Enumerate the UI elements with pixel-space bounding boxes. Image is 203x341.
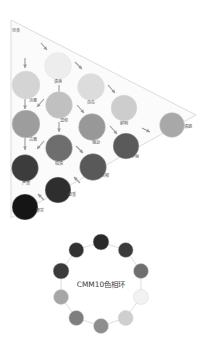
hue-circle-svg: CMM10色相环	[0, 228, 203, 341]
tone-label-hou-shi: 厚实	[36, 207, 44, 213]
tone-swatch-xian-ming[interactable]	[111, 95, 137, 121]
tone-label-hua-li: 华丽	[131, 153, 139, 159]
hue-dot-hue-5[interactable]	[118, 310, 133, 325]
hue-dot-hue-8[interactable]	[54, 289, 69, 304]
tone-swatch-qingshuang[interactable]	[45, 53, 72, 80]
tone-label-wen-zhong: 稳重	[68, 191, 76, 197]
hue-dot-hue-3[interactable]	[133, 264, 148, 279]
hue-circle-panel: CMM10色相环	[0, 228, 203, 341]
hue-dot-hue-6[interactable]	[94, 319, 109, 334]
apex-label: 轻柔	[12, 27, 20, 33]
tone-swatch-wen-he[interactable]	[46, 92, 73, 119]
tone-swatch-qiang-lie[interactable]	[79, 114, 106, 141]
tone-label-nong-yu: 浓郁	[101, 172, 109, 178]
hue-dot-hue-1[interactable]	[93, 234, 109, 250]
tone-label-zi-zai: 自在	[87, 99, 95, 105]
tone-swatch-wen-zhong[interactable]	[45, 177, 71, 203]
tone-swatch-dan-ya[interactable]	[12, 71, 40, 99]
hue-dot-hue-2[interactable]	[118, 243, 133, 258]
tone-label-xian-ming: 鲜明	[120, 120, 128, 126]
hue-circle-title: CMM10色相环	[77, 280, 125, 289]
tone-swatch-zi-zai[interactable]	[78, 74, 105, 101]
tone-triangle-svg: 轻柔 清爽淡雅自在温和鲜明古雅强劲清朗暗清华丽严肃浓郁稳重厚实	[0, 0, 203, 230]
tone-label-qiang-lie: 强劲	[92, 139, 100, 145]
hue-dot-hue-4[interactable]	[133, 289, 148, 304]
hue-dot-hue-10[interactable]	[69, 243, 84, 258]
tone-swatch-an-qing[interactable]	[46, 135, 73, 162]
tone-swatch-hou-shi[interactable]	[12, 194, 38, 220]
tone-label-wen-he: 温和	[60, 117, 68, 123]
tone-swatch-gu-ya[interactable]	[12, 110, 40, 138]
hue-dot-hue-7[interactable]	[69, 310, 84, 325]
tone-swatch-qing-lang[interactable]	[160, 113, 185, 138]
tone-label-dan-ya: 淡雅	[29, 97, 37, 103]
tone-label-gu-ya: 古雅	[29, 136, 37, 142]
tone-swatch-yan-su[interactable]	[12, 155, 39, 182]
tone-triangle-panel: 轻柔 清爽淡雅自在温和鲜明古雅强劲清朗暗清华丽严肃浓郁稳重厚实	[0, 0, 203, 230]
tone-label-qingshuang: 清爽	[54, 78, 62, 84]
tone-label-qing-lang: 清朗	[184, 123, 192, 129]
tone-label-an-qing: 暗清	[55, 160, 63, 166]
tone-label-yan-su: 严肃	[22, 180, 30, 186]
hue-dot-hue-9[interactable]	[53, 263, 69, 279]
